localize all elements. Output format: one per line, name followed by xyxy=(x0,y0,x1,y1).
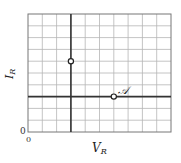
x-axis-label: VR xyxy=(92,141,107,156)
point-a-label: 𝒜 xyxy=(118,84,132,97)
origin-x-label: 0 xyxy=(26,135,31,144)
y-axis-label: IR xyxy=(3,69,17,80)
point-b-marker xyxy=(68,59,73,64)
grid xyxy=(28,14,171,132)
diagram-canvas: 𝒝 𝒜 IR VR 0 0 xyxy=(0,0,181,163)
point-a-marker xyxy=(111,94,116,99)
